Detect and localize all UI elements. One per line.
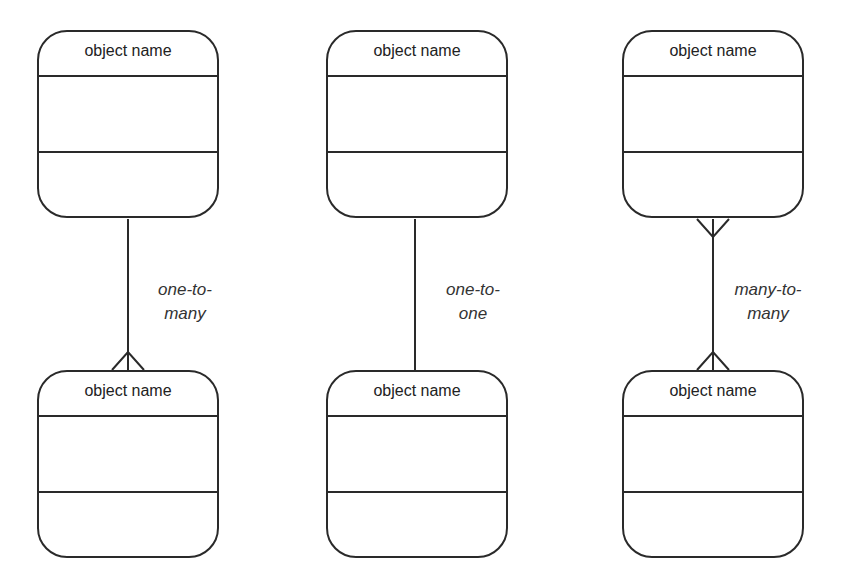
entity-name: object name [328,372,506,417]
entity-box-top-left: object name [37,30,219,218]
entity-box-bottom-right: object name [622,370,804,558]
entity-name: object name [39,32,217,77]
entity-attributes [39,75,217,153]
entity-name: object name [624,32,802,77]
entity-methods [328,493,506,556]
entity-methods [39,493,217,556]
entity-attributes [328,415,506,493]
label-line1: one-to- [438,278,508,302]
label-line2: many [150,302,220,326]
entity-attributes [39,415,217,493]
entity-attributes [624,75,802,153]
entity-box-top-right: object name [622,30,804,218]
entity-methods [39,153,217,216]
entity-methods [624,493,802,556]
entity-name: object name [328,32,506,77]
entity-box-bottom-left: object name [37,370,219,558]
entity-box-top-middle: object name [326,30,508,218]
entity-name: object name [624,372,802,417]
entity-name: object name [39,372,217,417]
label-line1: one-to- [150,278,220,302]
label-line2: many [722,302,814,326]
entity-methods [328,153,506,216]
entity-methods [624,153,802,216]
label-line1: many-to- [722,278,814,302]
relationship-label-one-to-many: one-to- many [150,278,220,326]
entity-attributes [624,415,802,493]
entity-attributes [328,75,506,153]
label-line2: one [438,302,508,326]
entity-box-bottom-middle: object name [326,370,508,558]
relationship-label-one-to-one: one-to- one [438,278,508,326]
relationship-label-many-to-many: many-to- many [722,278,814,326]
